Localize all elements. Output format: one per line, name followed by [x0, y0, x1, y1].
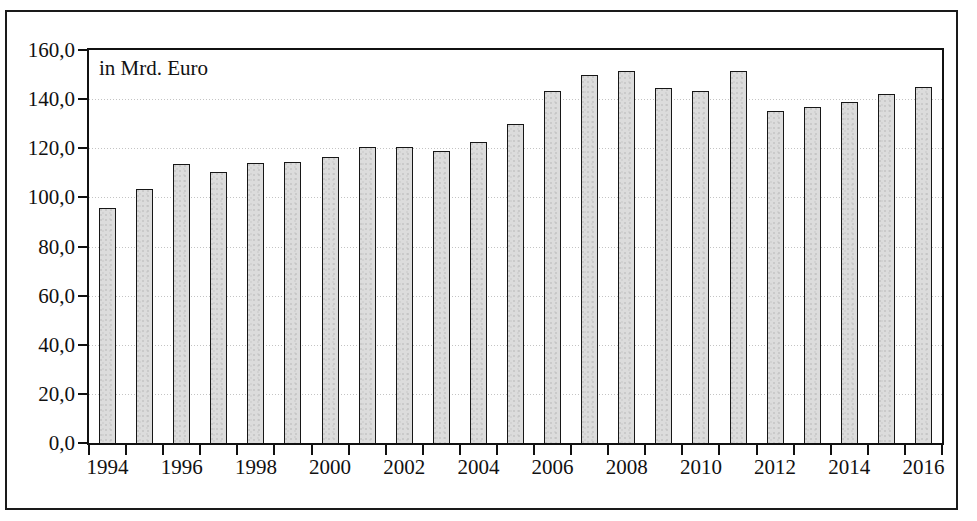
x-axis-tick-label: 2016 — [902, 457, 944, 478]
bar — [507, 124, 524, 443]
gridline — [89, 99, 942, 100]
x-axis-tick-label: 2014 — [828, 457, 870, 478]
bar — [284, 162, 301, 443]
y-axis-tick-label: 80,0 — [0, 236, 75, 257]
y-axis-tick — [78, 295, 87, 297]
x-axis-tick-label: 1994 — [87, 457, 129, 478]
bar — [247, 163, 264, 443]
x-axis-tick-label: 2002 — [383, 457, 425, 478]
unit-caption: in Mrd. Euro — [99, 58, 208, 79]
x-axis-tick — [941, 445, 943, 455]
bar — [99, 208, 116, 443]
y-axis-tick-label: 160,0 — [0, 40, 75, 61]
y-axis-tick — [78, 98, 87, 100]
x-axis-tick-label: 2004 — [457, 457, 499, 478]
bar — [210, 172, 227, 443]
bar — [581, 75, 598, 443]
y-axis-tick-label: 0,0 — [0, 433, 75, 454]
x-axis-tick-label: 2010 — [680, 457, 722, 478]
plot-area: in Mrd. Euro — [87, 48, 944, 445]
x-axis-tick-label: 1998 — [235, 457, 277, 478]
bar — [730, 71, 747, 443]
bar — [618, 71, 635, 443]
plot-inner — [89, 50, 942, 443]
x-axis-tick — [718, 445, 720, 455]
x-axis-tick — [459, 445, 461, 455]
x-axis-tick — [348, 445, 350, 455]
x-axis-tick — [756, 445, 758, 455]
bar — [544, 91, 561, 443]
x-axis-tick — [88, 445, 90, 455]
y-axis-tick — [78, 147, 87, 149]
bar — [878, 94, 895, 443]
x-axis-tick-label: 2008 — [606, 457, 648, 478]
bar — [655, 88, 672, 443]
x-axis-tick — [644, 445, 646, 455]
x-axis-tick-label: 2012 — [754, 457, 796, 478]
bar — [359, 147, 376, 443]
y-axis-tick — [78, 196, 87, 198]
x-axis-tick — [236, 445, 238, 455]
bar-chart-figure: 0,020,040,060,080,0100,0120,0140,0160,0 … — [0, 0, 977, 521]
x-axis-tick — [793, 445, 795, 455]
bar — [136, 189, 153, 443]
x-axis-tick — [607, 445, 609, 455]
bar — [915, 87, 932, 443]
x-axis-tick-label: 2006 — [532, 457, 574, 478]
x-axis-tick — [533, 445, 535, 455]
bar — [173, 164, 190, 443]
x-axis-tick — [830, 445, 832, 455]
y-axis-tick-label: 120,0 — [0, 138, 75, 159]
y-axis-tick-label: 60,0 — [0, 285, 75, 306]
y-axis-tick — [78, 49, 87, 51]
bar — [433, 151, 450, 443]
y-axis-tick — [78, 344, 87, 346]
x-axis-tick-label: 1996 — [161, 457, 203, 478]
bar — [396, 147, 413, 443]
bar — [692, 91, 709, 443]
x-axis-tick — [867, 445, 869, 455]
x-axis-tick — [570, 445, 572, 455]
x-axis-tick — [904, 445, 906, 455]
y-axis-tick-label: 40,0 — [0, 334, 75, 355]
x-axis-tick — [273, 445, 275, 455]
x-axis-tick — [496, 445, 498, 455]
x-axis-tick-label: 2000 — [309, 457, 351, 478]
y-axis-tick — [78, 246, 87, 248]
x-axis-tick — [422, 445, 424, 455]
x-axis-tick — [681, 445, 683, 455]
bar — [767, 111, 784, 443]
y-axis-tick-label: 20,0 — [0, 383, 75, 404]
bar — [841, 102, 858, 443]
y-axis-tick — [78, 442, 87, 444]
y-axis-tick — [78, 393, 87, 395]
x-axis-tick — [162, 445, 164, 455]
bar — [804, 107, 821, 444]
x-axis-tick — [385, 445, 387, 455]
x-axis-tick — [125, 445, 127, 455]
bar — [322, 157, 339, 443]
y-axis-tick-label: 100,0 — [0, 187, 75, 208]
bar — [470, 142, 487, 443]
y-axis-tick-label: 140,0 — [0, 89, 75, 110]
x-axis-tick — [311, 445, 313, 455]
x-axis-tick — [199, 445, 201, 455]
